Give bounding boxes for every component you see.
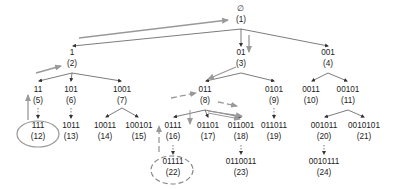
tree-node-17: 01101(17): [197, 121, 219, 142]
node-index: (23): [226, 168, 257, 179]
tree-node-19: 011011(19): [261, 121, 287, 142]
node-index: (18): [228, 132, 255, 143]
node-label: ∅: [236, 4, 246, 15]
node-index: (2): [67, 59, 77, 70]
tree-node-8: 011(8): [198, 85, 211, 106]
tree-node-5: 11(5): [33, 85, 43, 106]
node-label: 0110011: [226, 157, 257, 168]
node-label: 0010111: [309, 157, 340, 168]
tree-node-6: 101(6): [64, 85, 78, 106]
node-index: (17): [197, 132, 219, 143]
tree-node-16: 0111(16): [165, 121, 182, 142]
tree-node-12: 111(12): [31, 121, 46, 142]
tree-node-21: 0010101(21): [348, 121, 380, 142]
tree-node-23: 0110011(23): [226, 157, 257, 178]
tree-node-9: 0101(9): [265, 85, 283, 106]
node-label: 1011: [62, 121, 80, 132]
tree-node-1: ∅(1): [236, 4, 246, 25]
node-label: 0111: [165, 121, 182, 132]
node-index: (9): [265, 96, 283, 107]
node-index: (10): [302, 96, 320, 107]
node-index: (20): [311, 132, 338, 143]
node-index: (21): [348, 132, 380, 143]
tree-node-22: 01111(22): [163, 157, 184, 178]
node-index: (6): [64, 96, 78, 107]
tree-node-3: 01(3): [236, 48, 246, 69]
node-index: (14): [94, 132, 116, 143]
node-label: 01101: [197, 121, 219, 132]
node-label: 1001: [113, 85, 131, 96]
node-index: (24): [309, 168, 340, 179]
node-label: 00101: [337, 85, 360, 96]
tree-node-11: 00101(11): [337, 85, 360, 106]
node-index: (7): [113, 96, 131, 107]
node-label: 01111: [163, 157, 184, 168]
node-label: 011: [198, 85, 211, 96]
node-index: (11): [337, 96, 360, 107]
node-index: (15): [125, 132, 152, 143]
tree-node-14: 10011(14): [94, 121, 116, 142]
node-label: 10011: [94, 121, 116, 132]
node-index: (12): [31, 132, 46, 143]
node-label: 111: [31, 121, 46, 132]
node-index: (1): [236, 15, 246, 26]
node-label: 011011: [261, 121, 287, 132]
node-label: 001: [321, 48, 335, 59]
tree-node-13: 1011(13): [62, 121, 80, 142]
tree-node-18: 011001(18): [228, 121, 255, 142]
node-index: (8): [198, 96, 211, 107]
tree-node-2: 1(2): [67, 48, 77, 69]
node-label: 100101: [125, 121, 152, 132]
node-index: (3): [236, 59, 246, 70]
node-index: (5): [33, 96, 43, 107]
tree-node-10: 0011(10): [302, 85, 320, 106]
node-label: 11: [33, 85, 43, 96]
node-label: 0101: [265, 85, 283, 96]
node-label: 011001: [228, 121, 255, 132]
node-index: (19): [261, 132, 287, 143]
node-label: 0010101: [348, 121, 380, 132]
node-index: (22): [163, 168, 184, 179]
node-label: 01: [236, 48, 246, 59]
tree-node-15: 100101(15): [125, 121, 152, 142]
node-label: 101: [64, 85, 78, 96]
tree-node-20: 001011(20): [311, 121, 338, 142]
node-label: 1: [67, 48, 77, 59]
node-index: (16): [165, 132, 182, 143]
tree-node-4: 001(4): [321, 48, 335, 69]
node-index: (13): [62, 132, 80, 143]
tree-node-24: 0010111(24): [309, 157, 340, 178]
tree-node-7: 1001(7): [113, 85, 131, 106]
node-label: 0011: [302, 85, 320, 96]
node-index: (4): [321, 59, 335, 70]
node-label: 001011: [311, 121, 338, 132]
